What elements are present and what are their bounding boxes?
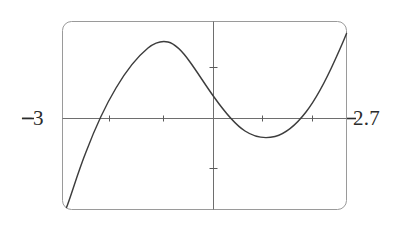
x-min-label: −3 bbox=[21, 108, 44, 129]
plot-svg bbox=[0, 0, 413, 232]
graph-figure: −3 2.7 bbox=[0, 0, 413, 232]
x-max-label: 2.7 bbox=[353, 108, 380, 129]
